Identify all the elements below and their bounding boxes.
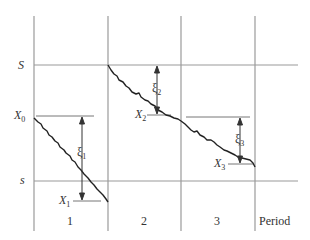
period-label-2: 2 [141, 214, 147, 228]
label-X2: X2 [134, 107, 146, 123]
label-xi1: ξ1 [77, 145, 86, 161]
period-axis-label: Period [259, 214, 290, 228]
label-s: s [20, 173, 25, 187]
xi1-arrowhead-down [80, 193, 85, 200]
period-dividers [34, 16, 255, 231]
period-label-3: 3 [214, 214, 220, 228]
xi3-arrowhead-down [238, 156, 243, 163]
label-S: S [18, 58, 24, 72]
label-xi3: ξ3 [235, 132, 244, 148]
label-X3: X3 [213, 156, 225, 172]
label-X0: X0 [13, 108, 25, 124]
xi3-arrowhead-up [238, 118, 243, 125]
xi2-arrowhead-down [155, 107, 160, 114]
period-label-1: 1 [67, 214, 73, 228]
depletion-path-period-2 [108, 65, 181, 121]
label-xi2: ξ2 [152, 81, 161, 97]
depletion-path-period-1 [34, 118, 108, 202]
inventory-diagram: S X0 s X1 X2 X3 ξ1 ξ2 ξ3 1 2 3 Period [0, 0, 310, 240]
label-X1: X1 [58, 193, 70, 209]
xi2-arrowhead-up [155, 66, 160, 73]
xi1-arrowhead-up [80, 117, 85, 124]
